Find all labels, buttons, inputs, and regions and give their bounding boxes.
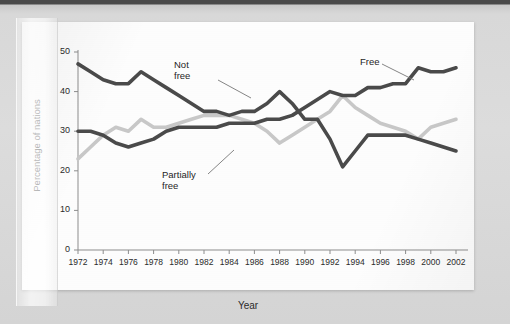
y-axis-tick-label: 10 [48,204,70,214]
x-axis-label: Year [22,300,474,311]
y-axis-tick-label: 50 [48,46,70,56]
series-annotation: Not free [174,60,190,81]
y-axis-tick-label: 0 [48,244,70,254]
series-annotation: Free [360,57,380,68]
chart-svg [22,22,474,290]
y-axis-tick-label: 40 [48,86,70,96]
scanned-page-photo: 0102030405019721974197619781980198219841… [0,0,510,324]
chart-page: 0102030405019721974197619781980198219841… [22,22,474,290]
y-axis-tick-label: 30 [48,125,70,135]
y-axis-tick-label: 20 [48,165,70,175]
x-axis-tick-label: 2002 [441,257,471,267]
series-line [78,64,456,167]
y-axis-label: Percentage of nations [31,66,42,226]
line-chart: 0102030405019721974197619781980198219841… [22,22,474,290]
series-annotation: Partially free [162,170,196,191]
